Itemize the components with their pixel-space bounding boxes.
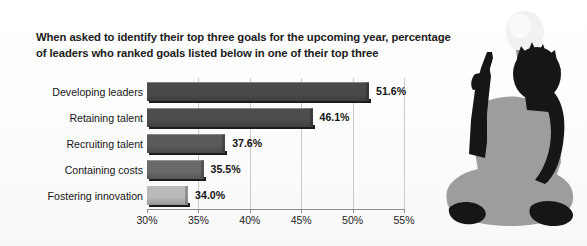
tick-mark-30	[147, 209, 148, 213]
bar-end-cap	[366, 82, 369, 100]
category-label-wrap: Containing costs	[33, 160, 143, 180]
x-tick-label: 55%	[393, 214, 414, 226]
value-label: 51.6%	[376, 82, 406, 100]
value-label: 35.5%	[211, 160, 241, 178]
tick-mark-40	[250, 209, 251, 213]
value-label: 46.1%	[320, 108, 350, 126]
bar-2[interactable]	[147, 108, 313, 127]
tick-mark-35	[198, 209, 199, 213]
bar-end-cap	[310, 108, 313, 126]
chart-page: When asked to identify their top three g…	[0, 0, 587, 246]
bar-1[interactable]	[147, 82, 369, 101]
category-label: Retaining talent	[33, 108, 143, 128]
bar-end-cap	[185, 186, 188, 204]
category-label: Recruiting talent	[33, 134, 143, 154]
x-tick-label: 35%	[188, 214, 209, 226]
category-label-wrap: Fostering innovation	[33, 186, 143, 206]
x-tick-label: 40%	[239, 214, 260, 226]
bar-5[interactable]	[147, 186, 188, 205]
x-tick-label: 45%	[291, 214, 312, 226]
value-label: 37.6%	[232, 134, 262, 152]
category-label: Containing costs	[33, 160, 143, 180]
category-label-wrap: Retaining talent	[33, 108, 143, 128]
bar-4[interactable]	[147, 160, 204, 179]
illustration	[413, 2, 587, 246]
category-label-wrap: Developing leaders	[33, 82, 143, 102]
value-label: 34.0%	[195, 186, 225, 204]
tick-mark-55	[404, 209, 405, 213]
x-tick-label: 30%	[136, 214, 157, 226]
bar-3[interactable]	[147, 134, 225, 153]
bar-end-cap	[201, 160, 204, 178]
category-label: Developing leaders	[33, 82, 143, 102]
category-label: Fostering innovation	[33, 186, 143, 206]
illustration-svg	[413, 2, 587, 246]
bar-end-cap	[222, 134, 225, 152]
category-label-wrap: Recruiting talent	[33, 134, 143, 154]
x-tick-label: 50%	[342, 214, 363, 226]
tick-mark-50	[353, 209, 354, 213]
tick-mark-45	[301, 209, 302, 213]
seated-person-silhouette	[446, 42, 573, 226]
